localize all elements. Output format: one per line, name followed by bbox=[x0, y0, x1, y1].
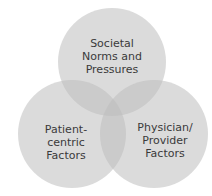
label-line: centric bbox=[36, 136, 96, 149]
label-physician-provider: Physician/ Provider Factors bbox=[130, 121, 200, 160]
venn-diagram bbox=[0, 0, 212, 196]
label-line: Norms and bbox=[72, 50, 152, 63]
label-line: Factors bbox=[36, 149, 96, 162]
label-line: Patient- bbox=[36, 123, 96, 136]
label-line: Societal bbox=[72, 37, 152, 50]
label-patient-centric: Patient- centric Factors bbox=[36, 123, 96, 162]
label-societal-norms: Societal Norms and Pressures bbox=[72, 37, 152, 76]
label-line: Physician/ bbox=[130, 121, 200, 134]
label-line: Factors bbox=[130, 147, 200, 160]
label-line: Pressures bbox=[72, 63, 152, 76]
label-line: Provider bbox=[130, 134, 200, 147]
